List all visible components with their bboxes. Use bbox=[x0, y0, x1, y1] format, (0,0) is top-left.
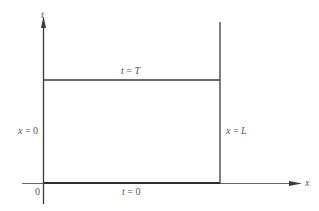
x-axis-arrow-icon bbox=[289, 181, 302, 186]
top-boundary-label: t = T bbox=[121, 65, 141, 76]
x-axis-label: x bbox=[304, 177, 310, 188]
domain-diagram: t x 0 t = T t = 0 x = 0 x = L bbox=[0, 0, 319, 211]
bottom-boundary-label: t = 0 bbox=[122, 186, 140, 197]
right-boundary-label: x = L bbox=[225, 125, 247, 136]
t-axis-label: t bbox=[41, 9, 44, 20]
left-boundary-label: x = 0 bbox=[17, 125, 38, 136]
origin-label: 0 bbox=[35, 186, 40, 197]
